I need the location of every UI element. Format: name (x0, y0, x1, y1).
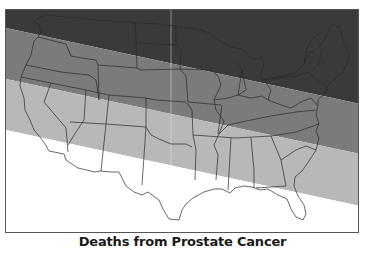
map-title: Deaths from Prostate Cancer (0, 234, 365, 249)
us-map (6, 10, 359, 233)
map-frame (5, 9, 359, 233)
